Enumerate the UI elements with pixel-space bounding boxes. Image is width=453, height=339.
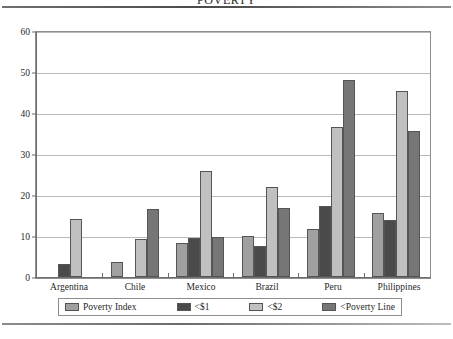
y-tick-label: 30 <box>21 150 31 160</box>
bar[interactable] <box>147 209 159 277</box>
y-tick-mark <box>32 73 36 74</box>
legend-swatch-icon <box>65 303 79 311</box>
bar-slot <box>46 33 58 277</box>
bar-slot <box>70 33 82 277</box>
y-tick-mark <box>32 196 36 197</box>
bar-slot <box>396 33 408 277</box>
x-tick-label: Peru <box>300 282 366 292</box>
bar[interactable] <box>70 219 82 277</box>
poverty-bar-chart: 0102030405060 <box>35 31 431 279</box>
y-tick-label: 50 <box>21 68 31 78</box>
bar[interactable] <box>266 187 278 277</box>
y-tick-mark <box>32 114 36 115</box>
legend-label: <$2 <box>267 302 282 312</box>
bar-group <box>37 33 102 277</box>
bar[interactable] <box>278 208 290 277</box>
bar[interactable] <box>242 236 254 277</box>
x-axis-labels: ArgentinaChileMexicoBrazilPeruPhilippine… <box>36 282 432 292</box>
bar-slot <box>135 33 147 277</box>
x-tick-label: Mexico <box>168 282 234 292</box>
legend-item[interactable]: <$2 <box>249 302 282 312</box>
bar[interactable] <box>396 91 408 277</box>
bar-slot <box>384 33 396 277</box>
document-page: POVERTY 0102030405060 ArgentinaChileMexi… <box>0 0 453 339</box>
legend-label: Poverty Index <box>83 302 137 312</box>
y-tick-label: 0 <box>25 273 30 283</box>
bar-slot <box>331 33 343 277</box>
bar[interactable] <box>58 264 70 277</box>
y-tick-mark <box>32 278 36 279</box>
legend-swatch-icon <box>322 303 336 311</box>
bar-slot <box>242 33 254 277</box>
bar-slot <box>278 33 290 277</box>
bar-slot <box>319 33 331 277</box>
x-tick-label: Philippines <box>366 282 432 292</box>
y-tick-label: 40 <box>21 109 31 119</box>
bar-slot <box>188 33 200 277</box>
bar-slot <box>58 33 70 277</box>
legend-swatch-icon <box>177 303 191 311</box>
bar[interactable] <box>408 131 420 277</box>
bar-slot <box>200 33 212 277</box>
bar[interactable] <box>212 237 224 277</box>
bar-slot <box>82 33 94 277</box>
bar-slot <box>176 33 188 277</box>
bar-slot <box>408 33 420 277</box>
x-tick-label: Argentina <box>36 282 102 292</box>
bar[interactable] <box>135 239 147 277</box>
bar[interactable] <box>111 262 123 277</box>
legend-label: <$1 <box>195 302 210 312</box>
bar[interactable] <box>384 220 396 277</box>
x-axis-line <box>36 277 430 278</box>
bar-slot <box>266 33 278 277</box>
bar-group <box>102 33 167 277</box>
bar[interactable] <box>319 206 331 277</box>
bar-slot <box>343 33 355 277</box>
bar-group <box>233 33 298 277</box>
bar[interactable] <box>200 171 212 277</box>
bar-slot <box>372 33 384 277</box>
bar-groups <box>37 33 429 277</box>
bar[interactable] <box>307 229 319 277</box>
y-tick-mark <box>32 32 36 33</box>
bar[interactable] <box>176 243 188 277</box>
header-rule <box>2 6 451 8</box>
bar[interactable] <box>372 213 384 277</box>
legend-label: <Poverty Line <box>340 302 395 312</box>
bar-slot <box>254 33 266 277</box>
y-axis-line <box>36 32 37 278</box>
bar-slot <box>212 33 224 277</box>
legend-item[interactable]: Poverty Index <box>65 302 137 312</box>
plot-area: 0102030405060 <box>35 31 431 279</box>
y-tick-mark <box>32 155 36 156</box>
y-tick-label: 20 <box>21 191 31 201</box>
bar-slot <box>147 33 159 277</box>
bar[interactable] <box>331 127 343 277</box>
legend-swatch-icon <box>249 303 263 311</box>
legend-item[interactable]: <Poverty Line <box>322 302 395 312</box>
bar-group <box>364 33 429 277</box>
bar-slot <box>307 33 319 277</box>
bar[interactable] <box>188 238 200 277</box>
chart-legend: Poverty Index<$1<$2<Poverty Line <box>58 298 402 316</box>
x-tick-label: Chile <box>102 282 168 292</box>
bar-group <box>168 33 233 277</box>
y-tick-label: 10 <box>21 232 31 242</box>
bar[interactable] <box>254 246 266 277</box>
y-tick-label: 60 <box>21 27 31 37</box>
bar-slot <box>111 33 123 277</box>
legend-item[interactable]: <$1 <box>177 302 210 312</box>
bar-group <box>298 33 363 277</box>
footer-rule <box>2 323 451 325</box>
x-tick-label: Brazil <box>234 282 300 292</box>
bar-slot <box>123 33 135 277</box>
bar[interactable] <box>343 80 355 277</box>
y-tick-mark <box>32 237 36 238</box>
